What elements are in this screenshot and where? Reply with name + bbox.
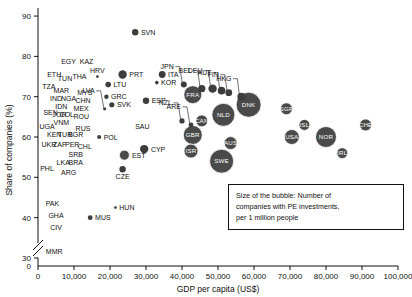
point-label-mmr: MMR (46, 248, 63, 255)
point-label-sgp: SGP (280, 105, 294, 112)
x-tick-label: 100,000 (384, 272, 412, 281)
leader-line-lva (96, 91, 104, 108)
point-label-kaz: KAZ (80, 58, 94, 65)
point-label-pol: POL (104, 134, 118, 141)
x-tick-label: 20,000 (98, 272, 123, 281)
point-label-bra: BRA (69, 159, 84, 166)
bubble-hun[interactable] (114, 206, 117, 209)
bubble-grc[interactable] (104, 94, 108, 98)
x-tick-label: 90,000 (350, 272, 375, 281)
leader-line-hkg (233, 79, 239, 94)
point-label-are: ARE (167, 103, 182, 110)
legend-line-3: per 1 million people (236, 213, 396, 224)
point-label-mys: MYS (77, 89, 93, 96)
bubble-hkg[interactable] (237, 93, 245, 101)
bubble-est[interactable] (119, 150, 129, 160)
bubble-deu[interactable] (208, 84, 216, 92)
point-label-tha: THA (72, 73, 86, 80)
x-tick-label: 40,000 (170, 272, 195, 281)
bubble-prt[interactable] (118, 70, 126, 78)
x-axis: 0 010,00020,00030,00040,00050,00060,0007… (27, 262, 412, 294)
point-label-fin: FIN (208, 71, 219, 78)
point-label-chl: CHL (78, 143, 92, 150)
bubble-ita[interactable] (159, 71, 166, 78)
point-label-ltu: LTU (114, 81, 127, 88)
point-label-civ: CIV (50, 224, 62, 231)
point-label-fra: FRA (186, 91, 200, 98)
point-label-can: CAN (195, 117, 209, 124)
y-tick-label: 40 (22, 214, 31, 223)
x-axis-title: GDP per capita (US$) (177, 284, 260, 294)
point-label-lka: LKA (57, 159, 71, 166)
point-label-vnm: VNM (54, 119, 70, 126)
point-label-sau: SAU (135, 123, 149, 130)
y-tick-label: 50 (22, 173, 31, 182)
legend-line-2: companies with PE investments, (236, 202, 396, 213)
legend-line-1: Size of the bubble: Number of (236, 191, 396, 202)
bubble-mus[interactable] (88, 215, 93, 220)
bubble-kor[interactable] (155, 81, 159, 85)
bubble-jpn[interactable] (181, 82, 187, 88)
point-label-phl: PHL (40, 165, 54, 172)
point-label-usa: USA (285, 133, 299, 140)
point-label-bgr: BGR (68, 131, 83, 138)
point-label-swe: SWE (214, 157, 229, 164)
bubble-cze[interactable] (119, 166, 125, 172)
point-label-isr: ISR (186, 147, 197, 154)
bubble-lva[interactable] (103, 107, 106, 110)
bubble-size-legend: Size of the bubble: Number of companies … (228, 184, 404, 230)
y-tick-label: 70 (22, 93, 31, 102)
point-label-arg: ARG (61, 169, 76, 176)
bubble-are[interactable] (189, 123, 194, 128)
bubble-esp[interactable] (143, 98, 149, 104)
point-label-mar: MAR (54, 87, 70, 94)
y-axis-title: Share of companies (%) (4, 104, 14, 195)
y-tick-label: 90 (22, 12, 31, 21)
point-label-aus: AUS (224, 139, 237, 146)
y-tick-label: 80 (22, 52, 31, 61)
point-label-dnk: DNK (242, 101, 256, 108)
point-label-rou: ROU (73, 113, 89, 120)
bubble-hrv[interactable] (96, 75, 99, 78)
x-tick-label: 80,000 (314, 272, 339, 281)
point-label-che: CHE (359, 121, 373, 128)
point-label-hun: HUN (119, 204, 134, 211)
x-tick-label: 70,000 (278, 272, 303, 281)
x-tick-label: 60,000 (242, 272, 267, 281)
point-label-uga: UGA (39, 123, 55, 130)
bubble-pol[interactable] (97, 135, 101, 139)
point-label-chn: CHN (75, 97, 90, 104)
point-label-col: COL (60, 111, 75, 118)
point-label-kor: KOR (161, 79, 176, 86)
point-label-prt: PRT (129, 71, 144, 78)
point-label-hrv: HRV (90, 67, 105, 74)
bubble-aut[interactable] (218, 87, 226, 95)
point-label-srb: SRB (69, 151, 84, 158)
y-tick-label: 60 (22, 133, 31, 142)
chart-canvas: DNKSWENLDNORGBRFRAUSAISRAUSSGPCANCHEISLI… (0, 0, 412, 297)
point-label-nga: NGA (61, 95, 77, 102)
x-tick-label: 0 (36, 272, 41, 281)
y-zero-label: 0 (27, 262, 32, 271)
point-label-irl: IRL (337, 149, 348, 156)
x-tick-layer: 010,00020,00030,00040,00050,00060,00070,… (36, 266, 412, 281)
point-label-nor: NOR (319, 133, 334, 140)
bubble-fin[interactable] (225, 89, 232, 96)
bubble-ltu[interactable] (105, 82, 111, 88)
point-label-mex: MEX (74, 105, 90, 112)
x-tick-label: 10,000 (62, 272, 87, 281)
point-label-svk: SVK (117, 101, 131, 108)
point-label-gbr: GBR (186, 131, 200, 138)
x-tick-label: 50,000 (206, 272, 231, 281)
point-label-cze: CZE (116, 173, 130, 180)
point-label-jpn: JPN (161, 63, 174, 70)
bubble-svk[interactable] (109, 102, 114, 107)
y-tick-layer: 30405060708090 (22, 12, 38, 263)
bubble-nzl[interactable] (179, 118, 184, 123)
point-label-cyp: CYP (151, 146, 166, 153)
x-tick-label: 30,000 (134, 272, 159, 281)
bubble-svn[interactable] (132, 29, 138, 35)
y-axis: 30405060708090 Share of companies (%) (4, 8, 43, 266)
point-label-isl: ISL (299, 121, 309, 128)
point-label-mus: MUS (95, 214, 111, 221)
